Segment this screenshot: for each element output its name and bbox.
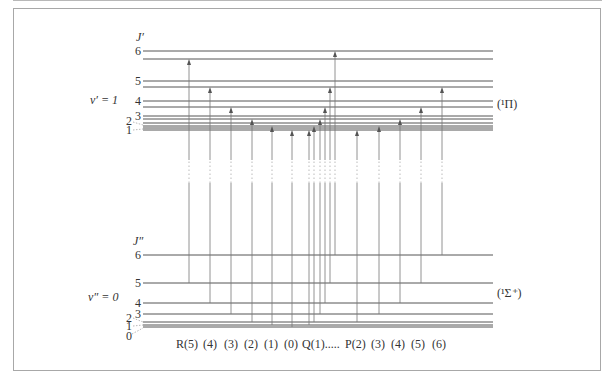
lower-J-label: 4	[135, 296, 141, 310]
branch-label: Q(1).....	[302, 337, 340, 351]
upper-term-label: (¹Π)	[497, 97, 517, 111]
transition-R-2	[250, 119, 254, 322]
arrowhead-icon	[355, 130, 359, 136]
arrowhead-icon	[419, 107, 423, 113]
upper-state-levels	[143, 51, 493, 130]
transition-P-4	[398, 119, 402, 303]
arrowhead-icon	[290, 130, 294, 136]
upper-J-label: 3	[135, 109, 141, 123]
arrowhead-icon	[440, 87, 444, 93]
arrowhead-icon	[250, 119, 254, 125]
branch-label: (5)	[411, 337, 425, 351]
branch-label: R(5)	[176, 337, 198, 351]
transition-P-6	[440, 87, 444, 255]
lower-J-number-labels: 0123456	[126, 248, 143, 343]
transition-P-3	[377, 126, 381, 314]
lower-J-label: 6	[135, 248, 141, 262]
upper-vib-label: v′ = 1	[90, 93, 118, 107]
transition-Q-1	[307, 130, 311, 325]
lower-J-label: 2	[126, 311, 132, 325]
upper-J-axis-label: J′	[136, 30, 144, 44]
transition-Q-6	[333, 51, 337, 255]
lower-vib-label: v″ = 0	[88, 290, 118, 304]
upper-J-label: 5	[135, 74, 141, 88]
transition-R-5	[187, 59, 191, 283]
arrowhead-icon	[377, 126, 381, 132]
arrowhead-icon	[398, 119, 402, 125]
lower-J-label: 5	[135, 276, 141, 290]
transition-Q-4	[323, 107, 327, 303]
upper-J-number-labels: 123456	[126, 44, 143, 137]
arrowhead-icon	[312, 126, 316, 132]
upper-J-label: 4	[135, 94, 141, 108]
branch-label: (4)	[391, 337, 405, 351]
branch-labels: R(5)(4)(3)(2)(1)(0)Q(1).....P(2)(3)(4)(5…	[176, 337, 446, 351]
branch-label: (3)	[224, 337, 238, 351]
lower-J-axis-label: J″	[133, 234, 144, 248]
upper-J-label: 6	[135, 44, 141, 58]
branch-label: (6)	[432, 337, 446, 351]
arrowhead-icon	[229, 107, 233, 113]
transition-R-0	[290, 130, 294, 327]
arrowhead-icon	[208, 87, 212, 93]
arrowhead-icon	[328, 87, 332, 93]
transition-Q-3	[318, 119, 322, 314]
lower-state-levels	[143, 255, 493, 327]
transition-arrows	[187, 51, 444, 327]
branch-label: (2)	[244, 337, 258, 351]
arrowhead-icon	[187, 59, 191, 65]
branch-label: (0)	[284, 337, 298, 351]
transition-P-2	[355, 130, 359, 322]
arrowhead-icon	[307, 130, 311, 136]
branch-label: (4)	[203, 337, 217, 351]
branch-label: (3)	[371, 337, 385, 351]
branch-label: P(2)	[345, 337, 366, 351]
arrowhead-icon	[318, 119, 322, 125]
arrowhead-icon	[333, 51, 337, 57]
arrowhead-icon	[323, 107, 327, 113]
branch-label: (1)	[264, 337, 278, 351]
transition-Q-2	[312, 126, 316, 322]
transition-R-1	[270, 126, 274, 325]
transition-P-5	[419, 107, 423, 283]
lower-term-label: (¹Σ⁺)	[497, 286, 522, 300]
upper-J-label: 2	[126, 114, 132, 128]
energy-level-diagram: J′ v′ = 1 (¹Π) J″ v″ = 0 (¹Σ⁺) 123456 01…	[0, 0, 616, 388]
arrowhead-icon	[270, 126, 274, 132]
